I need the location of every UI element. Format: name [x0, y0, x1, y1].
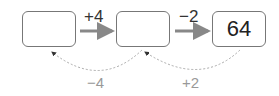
inverse-arrow-1 — [52, 50, 142, 71]
inverse-op-1: −4 — [87, 74, 104, 91]
inverse-op-2: +2 — [182, 74, 199, 91]
box-3: 64 — [212, 11, 266, 47]
box-2[interactable] — [116, 11, 170, 47]
box-1[interactable] — [22, 11, 76, 47]
forward-op-2: −2 — [179, 7, 198, 27]
inverse-arrow-2 — [145, 50, 240, 70]
forward-op-1: +4 — [84, 7, 103, 27]
